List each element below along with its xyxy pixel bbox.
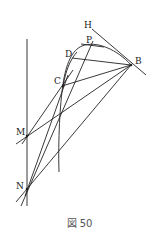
label-P: P [86,35,92,45]
line-BM [16,65,131,144]
point-B [130,64,133,67]
line-BD [72,58,131,65]
line-HB [92,29,146,75]
figure-caption: 図 50 [0,215,159,230]
label-B: B [135,56,142,66]
label-M: M [16,127,25,137]
label-H: H [84,20,92,30]
label-D: D [65,49,72,59]
label-C: C [54,76,61,86]
point-N [26,188,29,191]
geometry-figure: H P D C B M N [0,0,159,241]
point-M [26,135,29,138]
point-C [62,85,64,87]
label-N: N [16,181,24,191]
line-BC [62,65,131,86]
